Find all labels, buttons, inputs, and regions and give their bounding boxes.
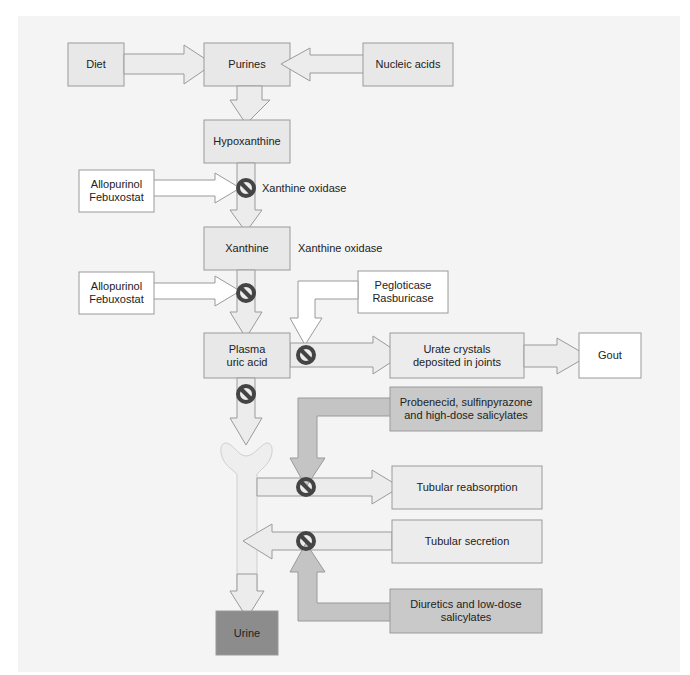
allopurinol-label-2: Allopurinol Febuxostat — [79, 272, 154, 314]
tubular-reabsorption-label: Tubular reabsorption — [392, 466, 542, 509]
urate-crystals-label: Urate crystals deposited in joints — [390, 333, 524, 378]
plasma-uric-acid-line2: uric acid — [227, 356, 268, 369]
probenecid-label: Probenecid, sulfinpyrazone and high-dose… — [390, 387, 542, 431]
xanthine-oxidase-label-1: Xanthine oxidase — [262, 182, 346, 194]
diuretics-line1: Diuretics and low-dose — [410, 598, 521, 611]
pegloticase-label: Pegloticase Rasburicase — [358, 271, 448, 313]
allopurinol-label-2-line1: Allopurinol — [91, 280, 142, 293]
plasma-uric-acid-line1: Plasma — [229, 343, 266, 356]
xanthine-label: Xanthine — [204, 227, 290, 270]
purines-label: Purines — [204, 43, 290, 86]
allopurinol-label-1-line2: Febuxostat — [89, 191, 143, 204]
tubular-secretion-label: Tubular secretion — [392, 520, 542, 563]
diuretics-label: Diuretics and low-dose salicylates — [390, 589, 542, 633]
gout-label: Gout — [579, 333, 641, 378]
xanthine-oxidase-label-2: Xanthine oxidase — [298, 242, 382, 254]
pegloticase-label-line2: Rasburicase — [372, 292, 433, 305]
allopurinol-label-2-line2: Febuxostat — [89, 293, 143, 306]
allopurinol-label-1-line1: Allopurinol — [91, 178, 142, 191]
allopurinol-label-1: Allopurinol Febuxostat — [79, 170, 154, 212]
hypoxanthine-label: Hypoxanthine — [204, 120, 290, 163]
nucleic-acids-label: Nucleic acids — [363, 43, 453, 86]
urate-crystals-line1: Urate crystals — [423, 343, 490, 356]
urine-label: Urine — [216, 611, 278, 655]
probenecid-line1: Probenecid, sulfinpyrazone — [400, 396, 533, 409]
probenecid-line2: and high-dose salicylates — [404, 409, 528, 422]
plasma-uric-acid-label: Plasma uric acid — [204, 333, 290, 378]
diuretics-line2: salicylates — [441, 611, 492, 624]
urate-crystals-line2: deposited in joints — [413, 356, 501, 369]
diet-label: Diet — [68, 43, 124, 86]
pegloticase-label-line1: Pegloticase — [375, 279, 432, 292]
